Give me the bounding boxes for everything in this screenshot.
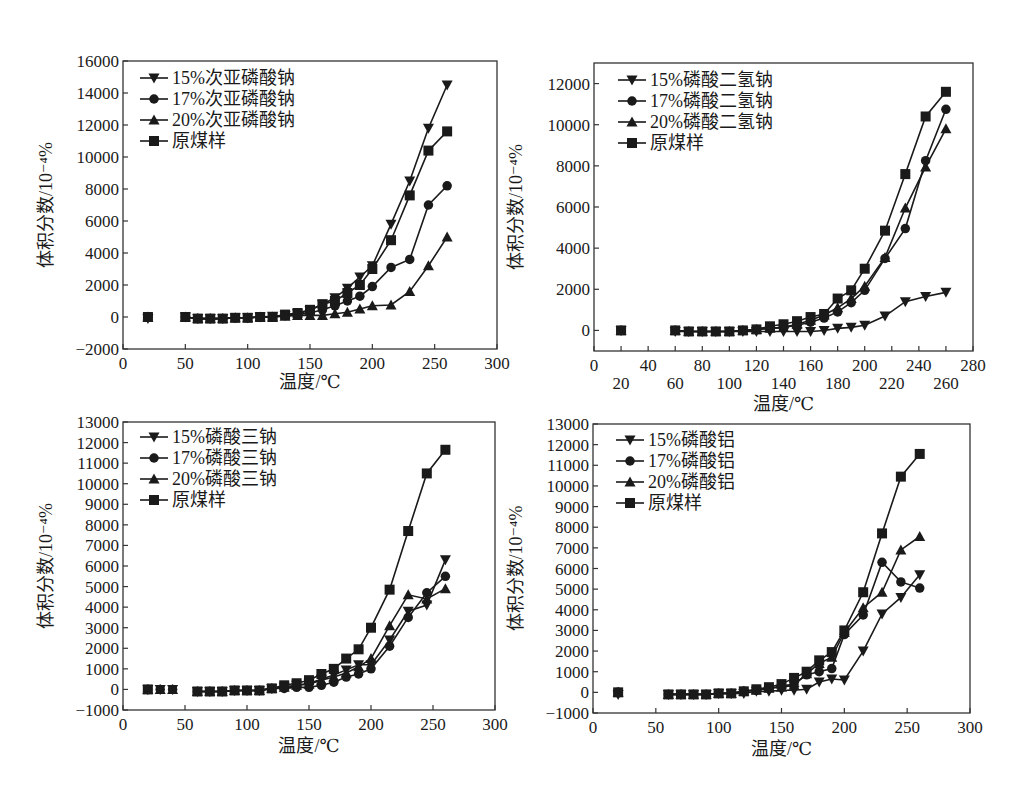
square-marker-icon — [317, 299, 327, 309]
circle-marker-icon — [625, 456, 635, 466]
circle-marker-icon — [355, 291, 365, 301]
square-marker-icon — [230, 313, 240, 323]
legend-label: 17%磷酸二氢钠 — [650, 91, 773, 111]
y-tick-label: 2000 — [85, 639, 119, 658]
x-tick-label: 200 — [358, 715, 384, 734]
triangle-up-marker-icon — [403, 589, 414, 599]
square-marker-icon — [802, 667, 812, 677]
square-marker-icon — [316, 669, 326, 679]
square-marker-icon — [738, 325, 748, 335]
x-tick-label: 80 — [694, 356, 711, 375]
x-tick-label: 250 — [420, 715, 446, 734]
square-marker-icon — [846, 285, 856, 295]
x-tick-label: 120 — [744, 356, 770, 375]
square-marker-icon — [218, 314, 228, 324]
chart-panel-dihydrogen-phosphate: 0200040006000800010000120000408012016020… — [506, 63, 986, 414]
y-tick-label: 0 — [581, 683, 590, 702]
square-marker-icon — [714, 688, 724, 698]
x-tick-label: 200 — [360, 354, 386, 373]
triangle-up-marker-icon — [914, 531, 925, 541]
square-marker-icon — [149, 495, 159, 505]
triangle-up-marker-icon — [366, 653, 377, 663]
triangle-up-marker-icon — [900, 203, 911, 213]
square-marker-icon — [329, 664, 339, 674]
y-tick-label: 7000 — [555, 539, 589, 558]
y-tick-label: 12000 — [548, 75, 591, 94]
square-marker-icon — [255, 312, 265, 322]
square-marker-icon — [280, 310, 290, 320]
x-tick-label: 100 — [706, 718, 732, 737]
x-axis-title: 温度/℃ — [753, 394, 814, 414]
x-tick-label: 160 — [798, 356, 824, 375]
legend-label: 17%磷酸铝 — [648, 451, 735, 471]
square-marker-icon — [941, 87, 951, 97]
triangle-down-marker-icon — [440, 555, 451, 565]
y-tick-label: 4000 — [556, 239, 590, 258]
y-tick-label: 5000 — [555, 580, 589, 599]
square-marker-icon — [305, 305, 315, 315]
circle-marker-icon — [941, 105, 951, 115]
square-marker-icon — [789, 673, 799, 683]
square-marker-icon — [149, 136, 159, 146]
square-marker-icon — [670, 325, 680, 335]
circle-marker-icon — [915, 583, 925, 593]
square-marker-icon — [355, 280, 365, 290]
y-axis-title: 体积分数/10⁻⁴% — [506, 144, 526, 270]
legend-label: 15%次亚磷酸钠 — [172, 68, 295, 88]
square-marker-icon — [877, 528, 887, 538]
square-marker-icon — [739, 686, 749, 696]
square-marker-icon — [697, 326, 707, 336]
triangle-down-marker-icon — [442, 81, 453, 91]
x-tick-label: 20 — [613, 374, 630, 393]
series-triangle-down — [613, 570, 926, 700]
x-tick-label: 250 — [422, 354, 448, 373]
y-tick-label: −1000 — [75, 701, 119, 720]
y-tick-label: 5000 — [85, 578, 119, 597]
x-tick-label: 200 — [852, 356, 878, 375]
legend-label: 20%磷酸三钠 — [172, 469, 277, 489]
square-marker-icon — [684, 326, 694, 336]
circle-marker-icon — [424, 200, 434, 210]
square-marker-icon — [765, 321, 775, 331]
square-marker-icon — [243, 313, 253, 323]
square-marker-icon — [279, 680, 289, 690]
series-triangle-up — [613, 531, 926, 699]
square-marker-icon — [422, 468, 432, 478]
x-tick-label: 150 — [297, 354, 323, 373]
y-tick-label: 12000 — [77, 116, 120, 135]
y-tick-label: 12000 — [77, 434, 120, 453]
triangle-down-marker-icon — [900, 297, 911, 307]
x-axis-title: 温度/℃ — [278, 736, 339, 756]
square-marker-icon — [254, 685, 264, 695]
legend: 15%磷酸二氢钠17%磷酸二氢钠20%磷酸二氢钠原煤样 — [618, 70, 773, 153]
circle-marker-icon — [442, 181, 452, 191]
triangle-up-marker-icon — [384, 620, 395, 630]
x-tick-label: 150 — [296, 715, 322, 734]
square-marker-icon — [440, 445, 450, 455]
square-marker-icon — [293, 308, 303, 318]
circle-marker-icon — [149, 453, 159, 463]
y-tick-label: 10000 — [548, 116, 591, 135]
y-tick-label: 7000 — [85, 536, 119, 555]
square-marker-icon — [751, 324, 761, 334]
square-marker-icon — [242, 685, 252, 695]
y-tick-label: 0 — [111, 308, 120, 327]
series-circle — [143, 572, 450, 697]
y-tick-label: 3000 — [555, 621, 589, 640]
circle-marker-icon — [403, 613, 413, 623]
square-marker-icon — [915, 449, 925, 459]
triangle-down-marker-icon — [423, 124, 434, 134]
y-tick-label: 13000 — [547, 415, 590, 434]
x-tick-label: 40 — [640, 356, 657, 375]
circle-marker-icon — [627, 96, 637, 106]
chart-panel-aluminum-phosphate: −100001000200030004000500060007000800090… — [506, 415, 983, 759]
square-marker-icon — [896, 472, 906, 482]
square-marker-icon — [613, 687, 623, 697]
x-tick-label: 300 — [484, 354, 510, 373]
x-tick-label: 240 — [906, 356, 932, 375]
square-marker-icon — [777, 679, 787, 689]
triangle-up-marker-icon — [877, 587, 888, 597]
legend-label: 原煤样 — [648, 493, 702, 513]
series-triangle-down — [142, 555, 451, 697]
chart-panel-trisodium-phosphate: −100001000200030004000500060007000800090… — [36, 413, 508, 756]
